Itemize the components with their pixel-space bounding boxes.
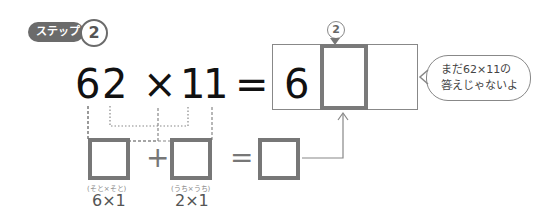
- box-outer-product[interactable]: [88, 138, 130, 180]
- equals-sign: =: [235, 62, 269, 106]
- step-number: 2: [80, 19, 108, 47]
- bubble-line1: まだ62×11の: [441, 62, 530, 78]
- plus-sign: +: [146, 140, 169, 176]
- inner-expr: 2×1: [175, 191, 209, 210]
- digit-2: 2: [102, 62, 127, 106]
- digit-1b: 1: [203, 62, 228, 106]
- box-inner-product[interactable]: [170, 138, 212, 180]
- digit-1a: 1: [180, 62, 205, 106]
- step-badge: ステップ: [28, 22, 84, 42]
- outer-expr: 6×1: [92, 191, 126, 210]
- step-label: ステップ: [36, 25, 80, 38]
- box-sum[interactable]: [258, 138, 300, 180]
- marker-arrow-icon: [330, 38, 340, 45]
- times-sign: ×: [143, 62, 177, 106]
- answer-digit-1: 6: [284, 62, 309, 106]
- digit-6: 6: [75, 62, 100, 106]
- speech-bubble: まだ62×11の 答えじゃないよ こた: [426, 55, 531, 101]
- answer-cell-middle[interactable]: [320, 44, 368, 110]
- marker-circle: 2: [327, 21, 345, 39]
- sum-equals-sign: =: [230, 140, 253, 176]
- bubble-ruby: こた: [441, 77, 453, 93]
- bubble-line2: 答えじゃないよ: [441, 78, 530, 94]
